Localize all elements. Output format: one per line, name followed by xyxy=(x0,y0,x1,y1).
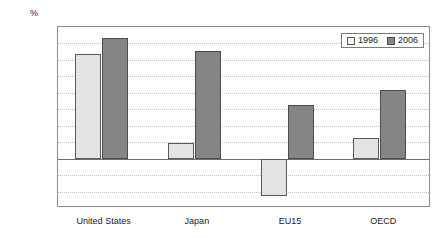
bar-group xyxy=(58,27,151,206)
x-tick-label: EU15 xyxy=(244,209,337,233)
bar-oecd-1996 xyxy=(353,138,379,159)
bar-japan-2006 xyxy=(195,51,221,158)
x-tick-label: Japan xyxy=(150,209,243,233)
bar-united-states-2006 xyxy=(102,38,128,159)
bar-group xyxy=(244,27,337,206)
x-tick-label: OECD xyxy=(337,209,430,233)
bar-japan-1996 xyxy=(168,143,194,159)
x-tick-label: United States xyxy=(57,209,150,233)
legend-item-1996: 1996 xyxy=(347,36,378,45)
bar-groups xyxy=(58,27,429,206)
legend-label-1996: 1996 xyxy=(358,36,378,45)
plot-area xyxy=(57,26,430,207)
legend-item-2006: 2006 xyxy=(387,36,418,45)
legend-swatch-1996-icon xyxy=(347,37,355,45)
chart-legend: 1996 2006 xyxy=(341,33,424,48)
bar-group xyxy=(151,27,244,206)
bar-oecd-2006 xyxy=(380,90,406,159)
x-axis-category-labels: United StatesJapanEU15OECD xyxy=(57,209,430,233)
bar-united-states-1996 xyxy=(75,54,101,158)
bar-group xyxy=(336,27,429,206)
bar-chart: % 0.400.350.300.250.200.150.100.050.00−0… xyxy=(0,0,434,238)
legend-swatch-2006-icon xyxy=(387,37,395,45)
legend-label-2006: 2006 xyxy=(398,36,418,45)
y-axis-unit-label: % xyxy=(30,8,38,18)
bar-eu15-1996 xyxy=(261,159,287,197)
bar-eu15-2006 xyxy=(288,105,314,158)
